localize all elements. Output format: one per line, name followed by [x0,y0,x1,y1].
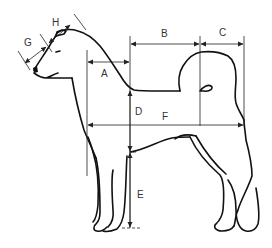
label-c: C [219,28,226,38]
dog-measurement-diagram [0,0,272,248]
dog-outline [33,30,259,232]
label-f: F [162,112,168,122]
label-g: G [24,38,32,48]
label-a: A [101,69,108,79]
label-h: H [52,18,59,28]
measurement-lines [18,14,244,228]
label-d: D [135,107,142,117]
label-e: E [137,190,144,200]
label-b: B [161,29,168,39]
